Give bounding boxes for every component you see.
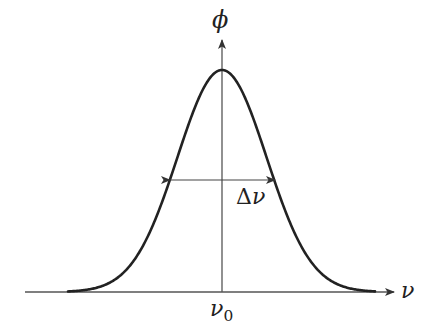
width-symbol: ν: [252, 184, 265, 209]
center-subscript: 0: [223, 307, 233, 325]
y-axis-label: ϕ: [212, 8, 228, 32]
gaussian-profile-diagram: ϕ ν ν0 Δν: [0, 0, 446, 332]
plot-canvas: [0, 0, 446, 332]
delta-symbol: Δ: [236, 184, 252, 209]
x-axis-label: ν: [401, 280, 414, 302]
center-frequency-label: ν0: [210, 298, 233, 325]
center-symbol: ν: [210, 296, 223, 321]
linewidth-label: Δν: [236, 186, 265, 208]
